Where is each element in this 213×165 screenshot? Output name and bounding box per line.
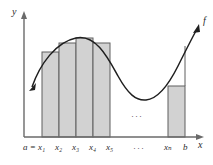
- tick-label-xn: xₙ: [164, 143, 172, 152]
- interior-ellipsis: ···: [131, 112, 143, 121]
- bar-1: [42, 52, 59, 137]
- bar-n: [168, 86, 185, 137]
- tick-label-x4: x₄: [89, 143, 96, 152]
- y-axis: [21, 11, 27, 137]
- curve-label-f: f: [203, 16, 206, 26]
- curve-right-arrowhead: [193, 24, 200, 33]
- figure-canvas: [0, 0, 213, 165]
- tick-label-b: b: [183, 143, 188, 152]
- tick-label-a-x1: a = x₁: [23, 143, 45, 152]
- bar-2: [59, 43, 76, 137]
- x-axis-label: x: [198, 140, 202, 150]
- tick-label-x3: x₃: [72, 143, 79, 152]
- bar-3: [76, 38, 93, 137]
- riemann-bars: [42, 38, 185, 137]
- tick-label-x2: x₂: [55, 143, 62, 152]
- tick-label-x5: x₅: [106, 143, 113, 152]
- x-axis-ellipsis: ···: [133, 144, 145, 153]
- y-axis-label: y: [12, 7, 16, 17]
- riemann-sum-figure: y x f a = x₁ x₂ x₃ x₄ x₅ ··· xₙ b ···: [0, 0, 213, 165]
